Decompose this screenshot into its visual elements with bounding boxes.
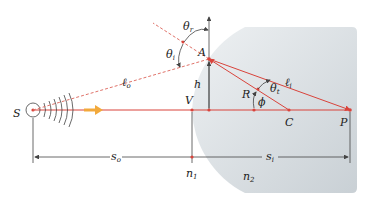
point-v	[190, 108, 193, 111]
label-n1: n1	[186, 167, 198, 181]
label-theta-r: θr	[183, 20, 194, 34]
label-v: V	[185, 94, 194, 107]
label-phi: ϕ	[258, 96, 266, 109]
refraction-diagram: S V A h R C P ϕ θr θi θt ℓo ℓi so si n1 …	[0, 0, 377, 202]
incident-ray	[33, 59, 209, 110]
label-s: S	[13, 107, 21, 120]
point-a	[207, 57, 211, 61]
direction-arrow-icon	[84, 105, 103, 115]
label-r: R	[241, 88, 250, 101]
label-p: P	[339, 116, 348, 129]
label-lo: ℓo	[122, 76, 131, 90]
label-a: A	[197, 46, 206, 59]
label-c: C	[285, 116, 294, 129]
theta-i-arc	[179, 44, 183, 67]
label-h: h	[194, 78, 201, 91]
label-theta-i: θi	[166, 48, 175, 62]
point-c	[287, 108, 290, 111]
label-so: so	[111, 150, 121, 164]
point-p	[348, 108, 352, 112]
